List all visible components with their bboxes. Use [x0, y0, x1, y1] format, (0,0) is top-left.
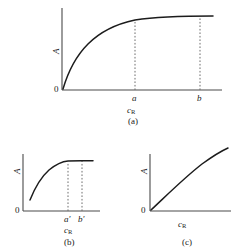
panel-a-y-axis-label: A: [52, 49, 61, 55]
panel-c-x-axis-label: cR: [178, 220, 186, 230]
chart-panel-b: A 0 a′ b′ cR (b): [0, 126, 120, 252]
panel-a-curve: [63, 16, 213, 89]
panel-a-x-axis-label: cR: [127, 106, 135, 116]
panel-b-origin-label: 0: [15, 206, 20, 215]
panel-b-x-axis-label: cR: [64, 226, 72, 236]
panel-a-plot: [0, 0, 239, 126]
panel-a-tick-label-a: a: [132, 94, 137, 103]
panel-a-x-axis-subscript: R: [131, 108, 135, 115]
panel-b-tick-label-b-prime: b′: [78, 215, 84, 224]
panel-c-y-axis-label: A: [140, 169, 149, 175]
panel-b-caption: (b): [64, 238, 75, 247]
panel-b-curve: [30, 161, 93, 200]
panel-c-origin-label: 0: [141, 206, 146, 215]
panel-c-plot: [118, 126, 239, 252]
chart-panel-c: A 0 cR (c): [118, 126, 239, 252]
figure-panel-group: A 0 a b cR (a) A 0 a′ b′ cR (b): [0, 0, 239, 252]
panel-a-origin-label: 0: [54, 85, 59, 94]
panel-c-caption: (c): [182, 238, 192, 247]
panel-a-caption: (a): [128, 117, 138, 126]
panel-b-y-axis-label: A: [13, 169, 22, 175]
chart-panel-a: A 0 a b cR (a): [0, 0, 239, 126]
panel-b-plot: [0, 126, 120, 252]
panel-a-tick-label-b: b: [197, 94, 202, 103]
panel-b-x-axis-subscript: R: [68, 228, 72, 235]
panel-b-tick-label-a-prime: a′: [64, 215, 70, 224]
panel-c-curve: [151, 148, 228, 210]
panel-c-x-axis-subscript: R: [182, 222, 186, 229]
